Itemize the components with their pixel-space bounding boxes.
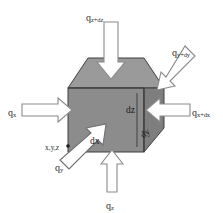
- label-q-x-sub: x: [13, 111, 16, 118]
- origin-point-marker: [66, 144, 70, 148]
- label-q-y-sub: y: [60, 166, 63, 173]
- label-q-x: qx: [8, 103, 16, 119]
- label-q-z-plus-dz: qz+dz: [86, 8, 103, 24]
- label-q-x-plus-dx-sub: x+dx: [197, 111, 210, 118]
- dimension-label-dx: dx: [90, 137, 100, 147]
- label-q-y-plus-dy: qy+dy: [172, 43, 190, 59]
- heat-flux-arrow-x: [22, 98, 72, 122]
- dimension-label-dz: dz: [126, 106, 135, 116]
- label-q-x-plus-dx: qx+dx: [192, 103, 210, 119]
- diagram-canvas: [0, 0, 223, 213]
- label-q-z-sub: z: [111, 204, 114, 211]
- heat-flux-arrow-z: [101, 150, 123, 192]
- coordinate-origin-label: x,y,z: [45, 144, 59, 152]
- label-q-z-plus-dz-sub: z+dz: [91, 16, 103, 23]
- label-q-y: qy: [55, 158, 63, 174]
- label-q-z: qz: [106, 196, 114, 212]
- cube-right-face: [144, 88, 164, 152]
- heat-conduction-control-volume-figure: qz+dz qy+dy qx qx+dx qy qz dz dy dx x,y,…: [0, 0, 223, 213]
- label-q-y-plus-dy-sub: y+dy: [177, 51, 190, 58]
